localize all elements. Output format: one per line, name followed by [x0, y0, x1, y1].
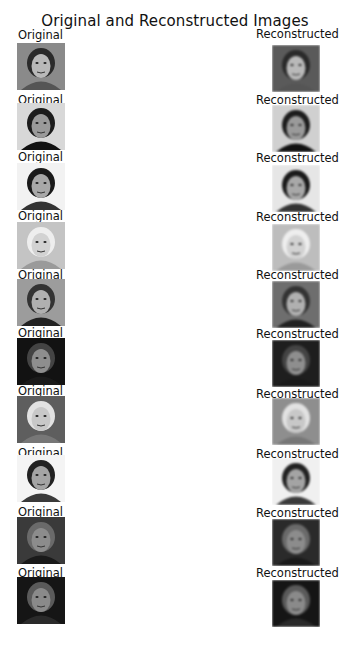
reconstructed-image [272, 224, 320, 271]
original-image [17, 279, 65, 326]
original-label: Original [18, 29, 63, 41]
reconstructed-label: Reconstructed [256, 567, 339, 579]
reconstructed-label: Reconstructed [256, 211, 339, 223]
original-image [17, 338, 65, 385]
reconstructed-label: Reconstructed [256, 28, 339, 40]
reconstructed-image [272, 398, 320, 445]
original-image [17, 455, 65, 502]
reconstructed-label: Reconstructed [256, 269, 339, 281]
reconstructed-image [272, 340, 320, 387]
original-image [17, 163, 65, 210]
reconstructed-label: Reconstructed [256, 328, 339, 340]
original-image [17, 517, 65, 564]
original-label: Original [18, 210, 63, 222]
original-label: Original [18, 151, 63, 163]
original-image [17, 103, 65, 150]
reconstructed-image [272, 458, 320, 505]
original-image [17, 577, 65, 624]
reconstructed-image [272, 45, 320, 92]
reconstructed-label: Reconstructed [256, 507, 339, 519]
reconstructed-image [272, 105, 320, 152]
reconstructed-image [272, 519, 320, 566]
original-image [17, 396, 65, 443]
original-image [17, 43, 65, 90]
reconstructed-image [272, 165, 320, 212]
original-image [17, 222, 65, 269]
reconstructed-label: Reconstructed [256, 152, 339, 164]
reconstructed-image [272, 580, 320, 627]
reconstructed-image [272, 281, 320, 328]
